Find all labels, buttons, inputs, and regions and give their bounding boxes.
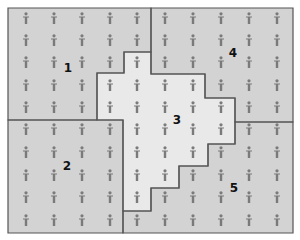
region-label-3: 3 [173,113,181,127]
region-label-2: 2 [63,159,71,173]
region-label-4: 4 [229,46,237,60]
zone-map: 12345 [0,0,300,240]
region-label-1: 1 [64,61,72,75]
region-label-5: 5 [230,181,238,195]
